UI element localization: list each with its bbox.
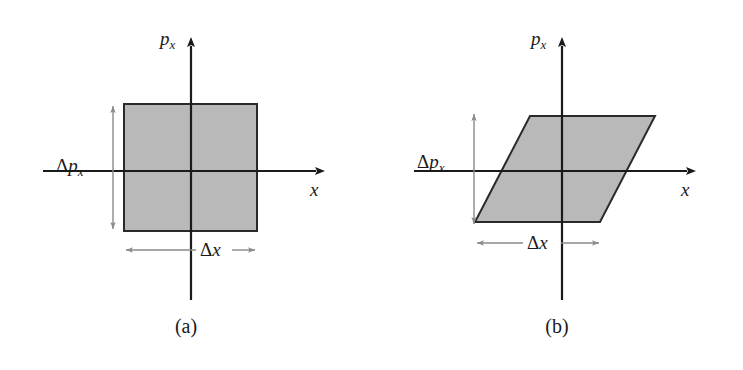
x-axis-label: x [681, 180, 689, 199]
px-axis-label: px [160, 29, 175, 52]
px-axis-label: px [531, 29, 546, 52]
delta-px-label: Δpx [417, 152, 444, 175]
delta-px-label: Δpx [56, 156, 83, 179]
panel-b-caption: (b) [517, 315, 597, 338]
delta-x-label: Δx [200, 240, 221, 259]
panel-a-caption: (a) [146, 315, 226, 338]
x-axis-label: x [310, 180, 318, 199]
phase-space-figure: px x Δpx Δx (a) [0, 0, 743, 370]
panel-a: px x Δpx Δx (a) [0, 0, 372, 370]
delta-x-label: Δx [527, 233, 548, 252]
panel-b: px x Δpx Δx (b) [371, 0, 743, 370]
phase-space-area-parallelogram [475, 116, 655, 222]
